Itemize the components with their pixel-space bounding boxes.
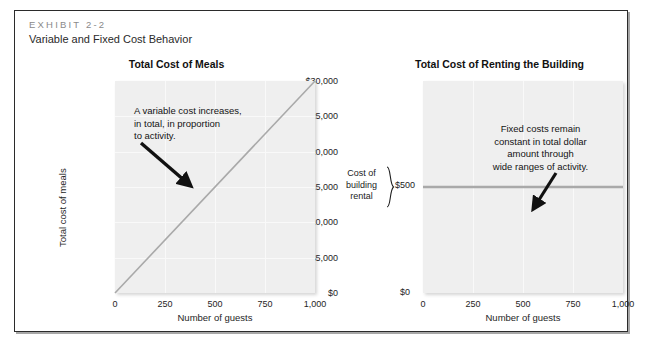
- chart-total-cost-of-renting: Total Cost of Renting the Building Cost …: [338, 11, 646, 333]
- x-tick-meals-500: 500: [207, 299, 222, 309]
- curly-brace-icon: [386, 166, 395, 208]
- bracket-label-text: Cost of building rental: [338, 168, 385, 203]
- x-axis-title-rent: Number of guests: [338, 312, 646, 323]
- x-axis-title-rent-text: Number of guests: [423, 312, 623, 323]
- y-axis-title-meals: Total cost of meals: [57, 168, 68, 247]
- fixed-cost-line: [423, 81, 623, 293]
- annotation-meals: A variable cost increases, in total, in …: [134, 105, 242, 143]
- fixed-cost-value-label: $500: [395, 180, 415, 190]
- x-tick-meals-1000: 1,000: [304, 299, 327, 309]
- x-tick-rent-1000: 1,000: [612, 299, 635, 309]
- x-tick-meals-0: 0: [112, 299, 117, 309]
- building-rental-bracket-group: Cost of building rental $500: [338, 166, 423, 212]
- x-tick-rent-250: 250: [465, 299, 480, 309]
- annotation-rent: Fixed costs remain constant in total dol…: [478, 123, 603, 173]
- chart-title-meals: Total Cost of Meals: [15, 58, 338, 70]
- x-tick-meals-750: 750: [257, 299, 272, 309]
- plot-area-rent: [423, 81, 623, 293]
- x-tick-rent-500: 500: [515, 299, 530, 309]
- chart-total-cost-of-meals: Total Cost of Meals $30,000 $25,000 $20,…: [15, 11, 338, 333]
- exhibit-frame: EXHIBIT 2-2 Variable and Fixed Cost Beha…: [14, 10, 628, 332]
- y-tick-rent-0: $0: [400, 287, 410, 297]
- x-tick-rent-750: 750: [565, 299, 580, 309]
- chart-title-rent: Total Cost of Renting the Building: [338, 58, 646, 70]
- x-tick-rent-0: 0: [420, 299, 425, 309]
- x-axis-title-meals-text: Number of guests: [115, 312, 315, 323]
- x-tick-meals-250: 250: [157, 299, 172, 309]
